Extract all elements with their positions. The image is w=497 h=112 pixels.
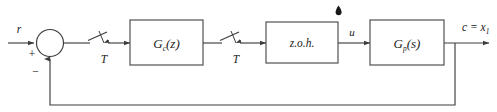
output-signal-label: c = x1 (462, 21, 489, 36)
block-diagram-canvas: Gc(z) z.o.h. (0, 0, 497, 112)
plant-label-arg: (s) (407, 36, 421, 51)
block-diagram-figure: Gc(z) z.o.h. (0, 0, 497, 112)
zero-order-hold-block: z.o.h. (266, 22, 338, 63)
sampler-period-label-1: T (101, 53, 109, 65)
sampler-switch-2 (220, 31, 239, 43)
zero-order-hold-label: z.o.h. (289, 37, 315, 49)
controller-label-arg: (z) (166, 36, 180, 51)
summing-junction (37, 30, 64, 57)
controller-block: Gc(z) (130, 20, 203, 65)
summing-minus-sign: − (32, 65, 39, 77)
reference-input-label: r (17, 23, 22, 35)
output-label-main: c = x (462, 21, 487, 33)
sampler-period-label-2: T (233, 53, 241, 65)
pointer-marker-icon (336, 6, 342, 16)
output-label-sub: 1 (486, 27, 490, 36)
summing-plus-sign: + (29, 48, 36, 60)
plant-block-label: Gp(s) (394, 36, 421, 53)
plant-block: Gp(s) (370, 20, 444, 65)
control-signal-label: u (349, 26, 355, 38)
controller-block-label: Gc(z) (153, 36, 179, 53)
sampler-switch-1 (88, 31, 107, 43)
